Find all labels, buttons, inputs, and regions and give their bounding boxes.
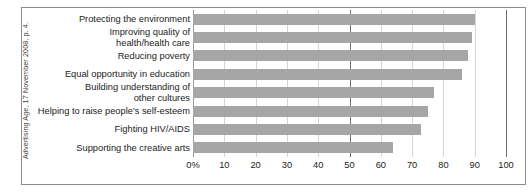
- bar-row: [193, 14, 506, 25]
- bar-row: [193, 106, 506, 117]
- bar: [193, 69, 462, 80]
- x-tick-label-100: 100: [498, 160, 514, 170]
- x-tick-label-70: 70: [407, 160, 417, 170]
- x-tick-label-60: 60: [376, 160, 386, 170]
- category-label: Building understanding of other cultures: [24, 82, 190, 103]
- gridline-100: [506, 10, 507, 157]
- category-label: Helping to raise people's self-esteem: [24, 106, 190, 116]
- bar-row: [193, 50, 506, 61]
- x-tick-label-80: 80: [438, 160, 448, 170]
- bar: [193, 106, 428, 117]
- x-tick-label-0: 0%: [186, 160, 199, 170]
- category-label: Supporting the creative arts: [24, 143, 190, 153]
- bar-row: [193, 69, 506, 80]
- x-tick-label-50: 50: [344, 160, 354, 170]
- bar-series: [193, 10, 506, 157]
- bar: [193, 50, 468, 61]
- x-axis-tick-labels: 0%102030405060708090100: [193, 160, 506, 174]
- x-tick-label-20: 20: [250, 160, 260, 170]
- bar-row: [193, 32, 506, 43]
- bar: [193, 124, 421, 135]
- x-tick-label-90: 90: [470, 160, 480, 170]
- bar-row: [193, 87, 506, 98]
- bar: [193, 14, 475, 25]
- category-label: Reducing poverty: [24, 51, 190, 61]
- category-label: Improving quality of health/health care: [24, 27, 190, 48]
- bar-row: [193, 124, 506, 135]
- category-label: Protecting the environment: [24, 14, 190, 24]
- chart-figure: Advertising Age, 17 November 2008, p. 4.…: [0, 0, 532, 193]
- category-label: Equal opportunity in education: [24, 69, 190, 79]
- bar-row: [193, 142, 506, 153]
- category-label: Fighting HIV/AIDS: [24, 124, 190, 134]
- x-tick-label-30: 30: [282, 160, 292, 170]
- bar: [193, 87, 434, 98]
- bar: [193, 142, 393, 153]
- x-tick-label-40: 40: [313, 160, 323, 170]
- bar: [193, 32, 472, 43]
- category-labels: Protecting the environmentImproving qual…: [24, 10, 190, 157]
- plot-area: [193, 10, 506, 157]
- x-tick-label-10: 10: [219, 160, 229, 170]
